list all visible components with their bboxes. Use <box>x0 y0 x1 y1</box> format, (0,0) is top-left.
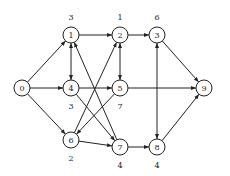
node-label: 3 <box>154 31 159 40</box>
node-8: 84 <box>149 139 165 170</box>
node-1: 13 <box>63 13 79 44</box>
node-weight-label: 4 <box>154 161 159 170</box>
edge-6-7 <box>79 141 112 146</box>
node-label: 1 <box>68 31 73 40</box>
edge-7-1 <box>74 42 117 139</box>
node-2: 21 <box>112 13 128 44</box>
edge-5-6 <box>76 94 114 134</box>
nodes-layer: 013213643576274849 <box>14 13 212 170</box>
node-weight-label: 3 <box>68 13 73 22</box>
node-7: 74 <box>112 139 128 170</box>
node-weight-label: 1 <box>117 13 122 22</box>
node-9: 9 <box>196 80 212 96</box>
node-label: 7 <box>117 143 122 152</box>
edge-0-6 <box>27 94 65 134</box>
node-label: 0 <box>19 84 24 93</box>
node-weight-label: 7 <box>117 102 122 111</box>
node-weight-label: 2 <box>68 154 73 163</box>
node-label: 4 <box>68 84 73 93</box>
node-label: 2 <box>117 31 122 40</box>
node-weight-label: 4 <box>117 161 122 170</box>
node-label: 8 <box>154 143 159 152</box>
node-label: 9 <box>201 84 206 93</box>
node-5: 57 <box>112 80 128 111</box>
node-weight-label: 3 <box>68 102 73 111</box>
edge-3-9 <box>162 41 198 82</box>
node-label: 5 <box>117 84 122 93</box>
node-weight-label: 6 <box>154 13 159 22</box>
node-0: 0 <box>14 80 30 96</box>
node-6: 62 <box>63 132 79 163</box>
node-3: 36 <box>149 13 165 44</box>
node-label: 6 <box>68 136 73 145</box>
network-diagram: 013213643576274849 <box>0 0 230 176</box>
edge-8-9 <box>162 94 199 140</box>
edge-0-1 <box>27 41 65 82</box>
